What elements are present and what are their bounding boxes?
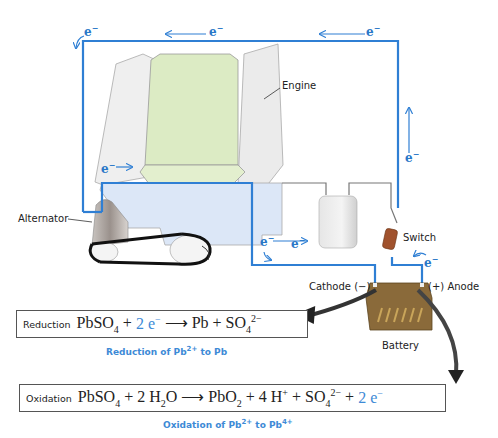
electron-label: e− [291,235,305,251]
reduction-tag: Reduction [23,319,71,330]
engine-label: Engine [282,80,316,91]
switch-label: Switch [403,232,436,243]
electron-label: e− [84,23,98,39]
electron-label: e− [366,23,380,39]
reduction-equation-box: Reduction PbSO4 + 2 e− ⟶ Pb + SO42− [16,310,308,338]
reduction-equation: PbSO4 + 2 e− ⟶ Pb + SO42− [77,313,262,335]
alternator-label: Alternator [18,213,68,224]
engine [95,44,283,245]
circuit-diagram [0,0,498,438]
alternator-pointer-line [68,219,92,222]
cathode-label: Cathode (−) [309,281,370,292]
electron-label: e− [260,233,274,249]
electron-label: e− [209,23,223,39]
electron-label: e− [101,160,115,176]
oxidation-equation: PbSO4 + 2 H2O ⟶ PbO2 + 4 H+ + SO42− + 2 … [78,387,383,409]
anode-label: (+) Anode [428,281,479,292]
switch [382,228,398,250]
reduction-caption: Reduction of Pb2+ to Pb [106,345,227,357]
oxidation-equation-box: Oxidation PbSO4 + 2 H2O ⟶ PbO2 + 4 H+ + … [19,384,446,412]
starter-motor [319,196,357,248]
battery-label: Battery [382,340,419,351]
oxidation-caption: Oxidation of Pb2+ to Pb4+ [163,418,293,430]
electron-label: e− [424,254,438,270]
electron-label: e− [405,149,419,165]
oxidation-tag: Oxidation [26,393,72,404]
